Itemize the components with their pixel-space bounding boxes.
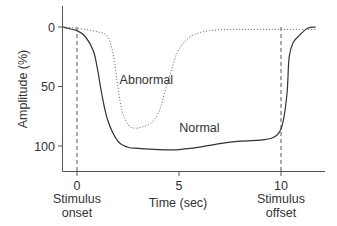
x-tick-label: 0: [74, 179, 81, 193]
x-tick-sublabel: offset: [266, 206, 297, 220]
y-tick-label: 0: [48, 21, 55, 35]
label-abnormal: Abnormal: [120, 73, 174, 87]
y-tick-label: 100: [34, 140, 55, 154]
x-tick-label: 10: [274, 179, 288, 193]
curve-labels: AbnormalNormal: [120, 73, 220, 135]
x-tick-sublabel: Stimulus: [53, 192, 101, 206]
x-tick-sublabel: Stimulus: [257, 192, 305, 206]
y-tick-label: 50: [41, 80, 55, 94]
x-tick-sublabel: onset: [62, 206, 93, 220]
series-abnormal-line: [63, 27, 316, 128]
y-axis-label: Amplitude (%): [16, 50, 30, 129]
amplitude-time-chart: 050100 0Stimulusonset510Stimulusoffset A…: [0, 0, 337, 226]
y-ticks: 050100: [34, 21, 62, 154]
x-axis-label: Time (sec): [149, 196, 208, 210]
x-tick-label: 5: [176, 179, 183, 193]
label-normal: Normal: [179, 121, 219, 135]
